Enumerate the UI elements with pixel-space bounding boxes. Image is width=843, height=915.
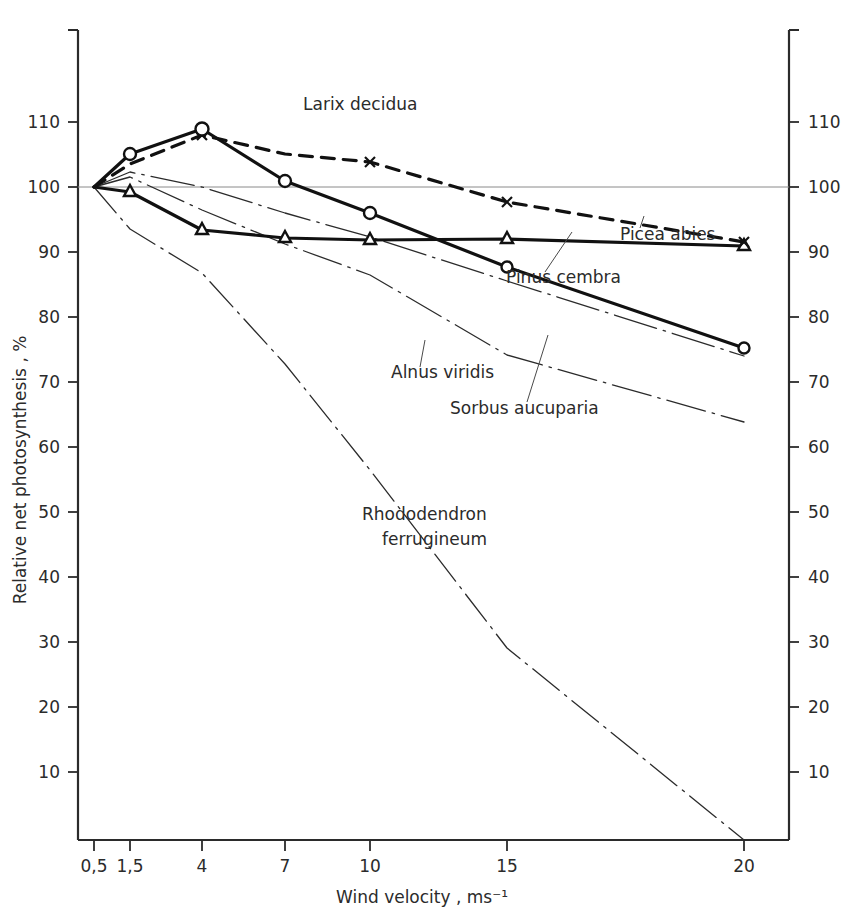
right-tick-label: 30 bbox=[808, 632, 830, 652]
y-axis-title: Relative net photosynthesis , % bbox=[10, 336, 30, 605]
axis-bottom bbox=[78, 840, 789, 851]
right-tick-labels: 10 20 30 40 50 60 70 80 90 100 110 bbox=[808, 112, 840, 782]
leader-line-sorbus bbox=[527, 335, 548, 402]
circle-open-marker bbox=[196, 123, 209, 136]
triangle-open-marker bbox=[196, 223, 208, 234]
circle-open-marker bbox=[364, 207, 376, 219]
x-tick-label: 7 bbox=[280, 856, 291, 876]
circle-open-marker bbox=[124, 148, 136, 160]
circle-open-marker bbox=[739, 343, 750, 354]
annotation-alnus-viridis: Alnus viridis bbox=[391, 362, 494, 382]
annotation-rhododendron-line1: Rhododendron bbox=[362, 504, 487, 524]
x-tick-label: 15 bbox=[496, 856, 518, 876]
left-tick-label: 100 bbox=[28, 177, 60, 197]
left-tick-label: 20 bbox=[38, 697, 60, 717]
right-tick-label: 50 bbox=[808, 502, 830, 522]
x-tick-label: 1,5 bbox=[116, 856, 143, 876]
leader-line-pinus bbox=[545, 232, 572, 272]
left-tick-label: 30 bbox=[38, 632, 60, 652]
left-tick-label: 60 bbox=[38, 437, 60, 457]
series-sorbus-aucuparia bbox=[94, 172, 744, 356]
left-tick-label: 90 bbox=[38, 242, 60, 262]
left-tick-label: 50 bbox=[38, 502, 60, 522]
left-tick-label: 80 bbox=[38, 307, 60, 327]
annotation-sorbus-aucuparia: Sorbus aucuparia bbox=[450, 398, 599, 418]
triangle-open-marker bbox=[501, 232, 513, 243]
x-axis-title: Wind velocity , ms⁻¹ bbox=[336, 887, 508, 907]
right-tick-label: 100 bbox=[808, 177, 840, 197]
right-tick-label: 40 bbox=[808, 567, 830, 587]
left-tick-label: 40 bbox=[38, 567, 60, 587]
bottom-axis-ticks bbox=[94, 840, 744, 851]
left-tick-labels: 10 20 30 40 50 60 70 80 90 100 110 bbox=[28, 112, 60, 782]
annotation-rhododendron-line2: ferrugineum bbox=[382, 529, 487, 549]
left-tick-label: 10 bbox=[38, 762, 60, 782]
right-tick-label: 110 bbox=[808, 112, 840, 132]
annotation-larix-decidua: Larix decidua bbox=[303, 94, 417, 114]
series-line bbox=[94, 172, 744, 356]
right-tick-label: 80 bbox=[808, 307, 830, 327]
series-line bbox=[94, 177, 744, 422]
right-tick-label: 70 bbox=[808, 372, 830, 392]
left-tick-label: 70 bbox=[38, 372, 60, 392]
triangle-open-marker bbox=[364, 233, 376, 244]
right-tick-label: 20 bbox=[808, 697, 830, 717]
left-tick-label: 110 bbox=[28, 112, 60, 132]
annotation-picea-abies: Picea abies bbox=[620, 224, 716, 244]
x-tick-label: 10 bbox=[359, 856, 381, 876]
axis-right bbox=[789, 30, 799, 840]
right-tick-label: 60 bbox=[808, 437, 830, 457]
right-tick-label: 90 bbox=[808, 242, 830, 262]
left-axis-ticks bbox=[68, 122, 78, 772]
chart-figure: 10 20 30 40 50 60 70 80 90 100 110 10 20… bbox=[0, 0, 843, 915]
annotation-pinus-cembra: Pinus cembra bbox=[506, 267, 621, 287]
series-alnus-viridis bbox=[94, 177, 744, 422]
x-tick-label: 0,5 bbox=[80, 856, 107, 876]
x-tick-label: 20 bbox=[733, 856, 755, 876]
bottom-tick-labels: 0,5 1,5 4 7 10 15 20 bbox=[80, 856, 754, 876]
axis-left bbox=[68, 30, 78, 840]
x-tick-label: 4 bbox=[197, 856, 208, 876]
right-axis-ticks bbox=[789, 122, 799, 772]
triangle-open-marker bbox=[279, 231, 291, 242]
circle-open-marker bbox=[279, 175, 291, 187]
right-tick-label: 10 bbox=[808, 762, 830, 782]
relative-net-photosynthesis-chart: 10 20 30 40 50 60 70 80 90 100 110 10 20… bbox=[0, 0, 843, 915]
